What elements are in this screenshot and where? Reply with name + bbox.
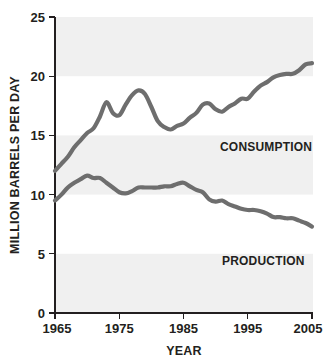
x-tick-label-1985: 1985 xyxy=(169,321,198,336)
oil-consumption-production-chart: 25 20 15 10 5 0 1965 1975 1985 1995 2005… xyxy=(0,0,327,363)
y-tick-label-10: 10 xyxy=(31,188,45,203)
y-tick-labels: 25 20 15 10 5 0 xyxy=(31,10,45,321)
y-axis-ticks xyxy=(49,17,55,313)
y-tick-label-0: 0 xyxy=(38,306,45,321)
x-axis-ticks xyxy=(55,313,312,319)
x-tick-label-1975: 1975 xyxy=(105,321,134,336)
y-tick-label-15: 15 xyxy=(31,128,45,143)
x-axis-title: YEAR xyxy=(166,344,202,358)
y-axis-title: MILLION BARRELS PER DAY xyxy=(8,76,22,254)
y-tick-label-20: 20 xyxy=(31,69,45,84)
chart-canvas: 25 20 15 10 5 0 1965 1975 1985 1995 2005… xyxy=(0,0,327,363)
series-label-production: PRODUCTION xyxy=(222,254,305,268)
x-tick-label-1995: 1995 xyxy=(233,321,262,336)
y-tick-label-25: 25 xyxy=(31,10,45,25)
x-tick-labels: 1965 1975 1985 1995 2005 xyxy=(43,321,323,336)
band-20-25 xyxy=(55,17,313,76)
x-tick-label-1965: 1965 xyxy=(43,321,72,336)
series-label-consumption: CONSUMPTION xyxy=(220,140,312,154)
y-tick-label-5: 5 xyxy=(38,247,45,262)
background-bands xyxy=(55,17,313,313)
x-tick-label-2005: 2005 xyxy=(294,321,323,336)
